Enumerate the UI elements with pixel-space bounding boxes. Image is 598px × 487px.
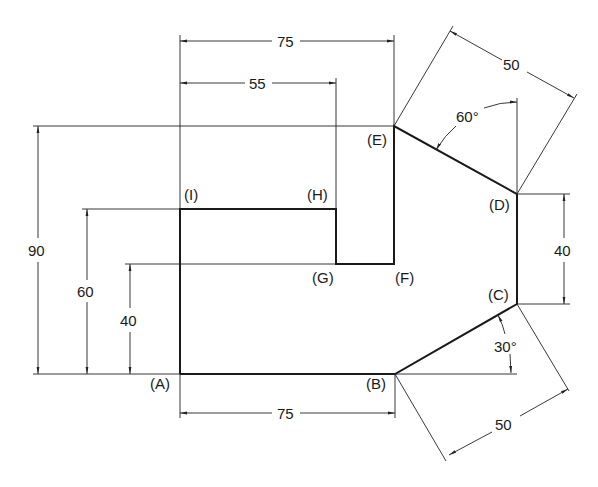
point-label-a: (A) bbox=[150, 375, 170, 392]
dim-bottom-75: 75 bbox=[277, 405, 294, 422]
point-label-b: (B) bbox=[366, 375, 386, 392]
point-label-e: (E) bbox=[367, 131, 387, 148]
extension-lines bbox=[33, 26, 577, 461]
point-label-f: (F) bbox=[395, 269, 414, 286]
technical-drawing: (A) (B) (C) (D) (E) (F) (G) (H) (I) 75 5… bbox=[0, 0, 598, 487]
dim-angle-60: 60° bbox=[456, 108, 479, 125]
point-label-c: (C) bbox=[488, 286, 509, 303]
point-label-d: (D) bbox=[489, 196, 510, 213]
dimension-lines bbox=[38, 31, 574, 455]
point-label-i: (I) bbox=[184, 186, 198, 203]
dim-angle-30: 30° bbox=[494, 338, 517, 355]
dim-top-75: 75 bbox=[277, 33, 294, 50]
shape-outline bbox=[180, 126, 517, 374]
dim-left-90: 90 bbox=[28, 242, 45, 259]
dim-slant-top-50: 50 bbox=[503, 56, 520, 73]
dim-left-40: 40 bbox=[120, 312, 137, 329]
dim-right-40: 40 bbox=[554, 242, 571, 259]
point-label-g: (G) bbox=[312, 269, 334, 286]
point-label-h: (H) bbox=[307, 186, 328, 203]
dim-slant-bottom-50: 50 bbox=[495, 416, 512, 433]
dim-left-60: 60 bbox=[77, 283, 94, 300]
dim-top-55: 55 bbox=[249, 75, 266, 92]
